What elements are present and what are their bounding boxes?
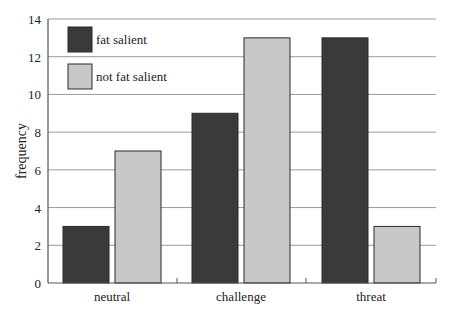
bar-not-fat-salient	[115, 151, 161, 283]
y-tick-label: 8	[35, 125, 42, 140]
y-tick-label: 14	[28, 12, 42, 27]
legend-label: not fat salient	[96, 69, 167, 84]
y-tick-label: 12	[28, 50, 41, 65]
bar-fat-salient	[322, 38, 368, 283]
x-tick-label: threat	[356, 289, 386, 304]
legend: fat salientnot fat salient	[68, 27, 167, 89]
y-tick-label: 4	[35, 201, 42, 216]
y-tick-label: 10	[28, 87, 41, 102]
chart-canvas: 02468101214 neutralchallengethreat frequ…	[0, 0, 454, 316]
y-tick-label: 0	[35, 276, 42, 291]
y-tick-label: 6	[35, 163, 42, 178]
bar-fat-salient	[63, 226, 109, 283]
gridlines	[48, 19, 436, 245]
x-tick-labels: neutralchallengethreat	[94, 289, 386, 304]
bar-chart: 02468101214 neutralchallengethreat frequ…	[0, 0, 454, 316]
legend-swatch	[68, 27, 92, 52]
x-tick-label: challenge	[216, 289, 266, 304]
y-axis-label: frequency	[14, 123, 29, 179]
x-tick-label: neutral	[94, 289, 130, 304]
y-tick-labels: 02468101214	[28, 12, 42, 291]
legend-swatch	[68, 64, 92, 89]
bar-not-fat-salient	[374, 226, 420, 283]
legend-label: fat salient	[96, 32, 147, 47]
bar-fat-salient	[192, 113, 238, 283]
bar-not-fat-salient	[244, 38, 290, 283]
y-tick-label: 2	[35, 238, 42, 253]
